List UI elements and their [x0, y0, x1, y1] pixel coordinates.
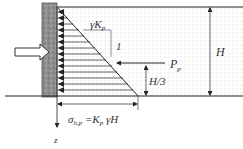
earth-pressure-diagram: γKp 1 Pp H H/3 σh,p =Kp γH z	[0, 0, 243, 149]
stress-formula-label: σh,p =Kp γH	[68, 113, 119, 127]
slope-one-label: 1	[116, 40, 122, 52]
height-label: H	[215, 45, 226, 59]
depth-axis-label: z	[53, 135, 58, 145]
third-height-label: H/3	[148, 75, 166, 87]
